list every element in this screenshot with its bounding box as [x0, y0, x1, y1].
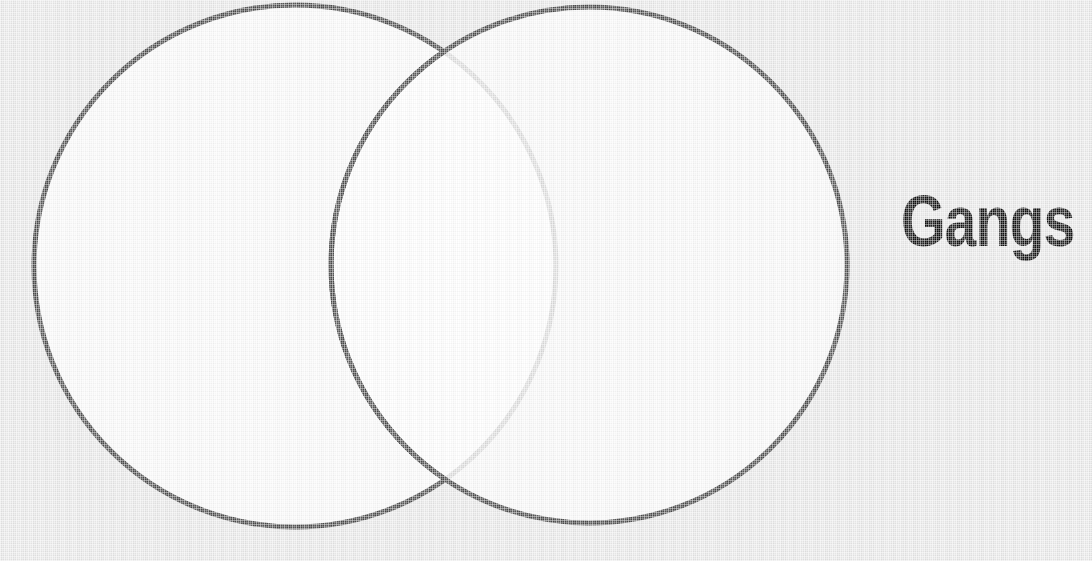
right-circle-label: Gangs	[901, 186, 1074, 256]
right-circle-fill[interactable]	[331, 7, 847, 523]
venn-diagram	[0, 0, 1092, 561]
slide-canvas: Gangs	[0, 0, 1092, 561]
